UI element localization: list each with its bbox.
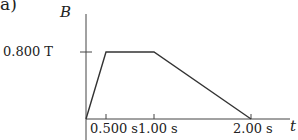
data-line [86,52,251,119]
plot-area [0,0,298,140]
